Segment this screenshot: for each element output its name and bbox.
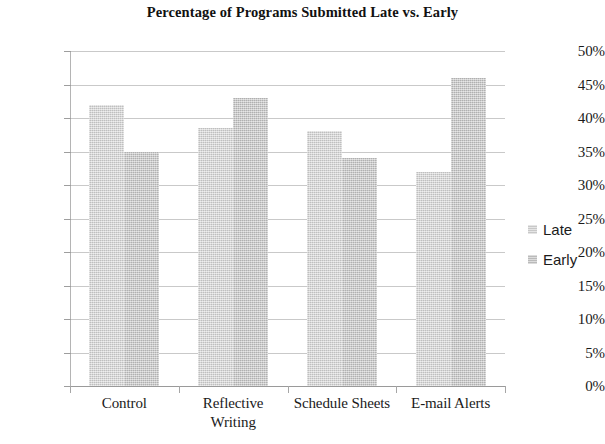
x-axis-tick: [288, 386, 289, 393]
bar-chart: Percentage of Programs Submitted Late vs…: [0, 0, 605, 444]
bar-late[interactable]: [307, 131, 342, 386]
bar-early[interactable]: [233, 98, 268, 386]
legend-label: Early: [543, 251, 577, 268]
bar-early[interactable]: [451, 78, 486, 386]
x-axis-tick: [396, 386, 397, 393]
y-axis-tick-label: 30%: [547, 177, 605, 194]
x-axis-tick: [70, 386, 71, 393]
y-axis-tick-label: 40%: [547, 110, 605, 127]
legend-label: Late: [543, 221, 572, 238]
chart-title: Percentage of Programs Submitted Late vs…: [0, 4, 605, 21]
x-axis-category-label: ReflectiveWriting: [179, 394, 288, 432]
y-axis-tick-label: 0%: [547, 378, 605, 395]
y-axis-tick-label: 10%: [547, 311, 605, 328]
x-axis-category-label: E-mail Alerts: [396, 394, 505, 413]
bar-late[interactable]: [198, 128, 233, 386]
legend-swatch-icon: [528, 255, 537, 264]
chart-legend: LateEarly: [528, 214, 600, 274]
bar-group: [307, 51, 377, 386]
x-axis-category-label: Schedule Sheets: [288, 394, 397, 413]
plot-area: [70, 51, 505, 386]
x-axis-category-line: Schedule Sheets: [288, 394, 397, 413]
y-axis-tick-label: 35%: [547, 143, 605, 160]
x-axis-category-line: Control: [70, 394, 179, 413]
x-axis-tick: [179, 386, 180, 393]
bar-early[interactable]: [342, 158, 377, 386]
x-axis-category-label: Control: [70, 394, 179, 413]
bar-late[interactable]: [416, 172, 451, 386]
y-axis-tick-label: 5%: [547, 344, 605, 361]
x-axis-tick: [505, 386, 506, 393]
legend-item-early[interactable]: Early: [528, 244, 600, 274]
y-axis-tick-label: 50%: [547, 43, 605, 60]
bar-late[interactable]: [89, 105, 124, 386]
y-axis-tick-label: 45%: [547, 76, 605, 93]
x-axis-category-line: Writing: [179, 413, 288, 432]
bar-group: [416, 51, 486, 386]
y-axis-tick-label: 15%: [547, 277, 605, 294]
bar-group: [89, 51, 159, 386]
bar-early[interactable]: [124, 152, 159, 387]
legend-swatch-icon: [528, 225, 537, 234]
bar-group: [198, 51, 268, 386]
x-axis-category-line: Reflective: [179, 394, 288, 413]
legend-item-late[interactable]: Late: [528, 214, 600, 244]
x-axis-category-line: E-mail Alerts: [396, 394, 505, 413]
